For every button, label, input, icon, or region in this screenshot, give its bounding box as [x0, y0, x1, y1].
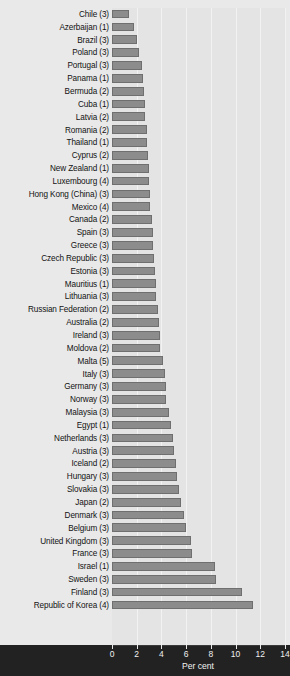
bar — [112, 267, 155, 276]
bar-track — [112, 47, 285, 60]
bar-track — [112, 445, 285, 458]
bar-track — [112, 111, 285, 124]
bar-track — [112, 432, 285, 445]
bar — [112, 562, 215, 571]
bar-row: Iceland (2) — [0, 458, 290, 471]
bar-row: Belgium (3) — [0, 522, 290, 535]
bar — [112, 177, 149, 186]
bar-category-label: Iceland (2) — [3, 459, 109, 468]
bar — [112, 498, 181, 507]
bar-track — [112, 21, 285, 34]
x-axis-band: 02468101214 Per cent — [0, 645, 290, 676]
bar — [112, 35, 137, 44]
bar-row: Italy (3) — [0, 368, 290, 381]
bar-row: Russian Federation (2) — [0, 303, 290, 316]
bar-row: Denmark (3) — [0, 509, 290, 522]
bar-row: United Kingdom (3) — [0, 535, 290, 548]
bar-category-label: Finland (3) — [3, 588, 109, 597]
bar-row: Cyprus (2) — [0, 149, 290, 162]
bar — [112, 485, 179, 494]
bar-category-label: Denmark (3) — [3, 511, 109, 520]
bar — [112, 164, 149, 173]
bar-track — [112, 291, 285, 304]
bar-category-label: Czech Republic (3) — [3, 254, 109, 263]
bar-category-label: Luxembourg (4) — [3, 177, 109, 186]
bar-category-label: Norway (3) — [3, 395, 109, 404]
bar — [112, 202, 150, 211]
bar-category-label: Sweden (3) — [3, 575, 109, 584]
x-axis-tick-label: 10 — [231, 649, 240, 659]
bar-track — [112, 8, 285, 21]
bar-category-label: Austria (3) — [3, 447, 109, 456]
bar-category-label: Israel (1) — [3, 562, 109, 571]
bar-category-label: Mauritius (1) — [3, 280, 109, 289]
bar-category-label: Spain (3) — [3, 228, 109, 237]
bar-track — [112, 226, 285, 239]
bar-category-label: Italy (3) — [3, 370, 109, 379]
bar-row: Mexico (4) — [0, 201, 290, 214]
bar — [112, 395, 166, 404]
bar-track — [112, 188, 285, 201]
bar-track — [112, 419, 285, 432]
bar-track — [112, 124, 285, 137]
x-axis-tick-label: 6 — [184, 649, 189, 659]
bar-row: France (3) — [0, 547, 290, 560]
bar-category-label: Mexico (4) — [3, 203, 109, 212]
bar-track — [112, 34, 285, 47]
bar-track — [112, 368, 285, 381]
bar-row: Norway (3) — [0, 393, 290, 406]
bar-track — [112, 406, 285, 419]
bar — [112, 459, 176, 468]
bar-category-label: Hungary (3) — [3, 472, 109, 481]
bar-category-label: Poland (3) — [3, 48, 109, 57]
x-axis-tick-label: 14 — [280, 649, 289, 659]
bar-row: Azerbaijan (1) — [0, 21, 290, 34]
bar-category-label: France (3) — [3, 549, 109, 558]
bar-track — [112, 265, 285, 278]
bar-row: Thailand (1) — [0, 136, 290, 149]
bar-row: Israel (1) — [0, 560, 290, 573]
bar — [112, 511, 184, 520]
bar — [112, 190, 150, 199]
bar-row: Netherlands (3) — [0, 432, 290, 445]
bar-category-label: Latvia (2) — [3, 113, 109, 122]
bar — [112, 112, 145, 121]
bar-row: Poland (3) — [0, 47, 290, 60]
bar-category-label: Chile (3) — [3, 10, 109, 19]
bar-track — [112, 252, 285, 265]
bar — [112, 279, 156, 288]
bar-row: Hungary (3) — [0, 470, 290, 483]
bar-track — [112, 560, 285, 573]
bar-category-label: Ireland (3) — [3, 331, 109, 340]
bar-row: Japan (2) — [0, 496, 290, 509]
bar-row: Bermuda (2) — [0, 85, 290, 98]
bar-category-label: Netherlands (3) — [3, 434, 109, 443]
bar — [112, 61, 142, 70]
bar-category-label: Japan (2) — [3, 498, 109, 507]
bar-category-label: Panama (1) — [3, 74, 109, 83]
bar — [112, 536, 191, 545]
bar-track — [112, 98, 285, 111]
bar-track — [112, 72, 285, 85]
x-axis-tick-label: 0 — [110, 649, 115, 659]
bar — [112, 601, 253, 610]
bar-track — [112, 85, 285, 98]
bar-row: Portugal (3) — [0, 59, 290, 72]
bar-track — [112, 470, 285, 483]
bar-category-label: Thailand (1) — [3, 138, 109, 147]
bar-row: Estonia (3) — [0, 265, 290, 278]
x-axis-tick-label: 8 — [208, 649, 213, 659]
bar-track — [112, 201, 285, 214]
bar-track — [112, 496, 285, 509]
bar — [112, 356, 163, 365]
bar — [112, 87, 144, 96]
bar — [112, 100, 145, 109]
bar — [112, 241, 153, 250]
bar — [112, 575, 216, 584]
bar-category-label: United Kingdom (3) — [3, 537, 109, 546]
bar-row: Ireland (3) — [0, 329, 290, 342]
bar-track — [112, 355, 285, 368]
bar-row: Germany (3) — [0, 380, 290, 393]
bar-category-label: Malta (5) — [3, 357, 109, 366]
bar-track — [112, 586, 285, 599]
